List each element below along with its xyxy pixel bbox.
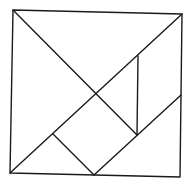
diagonal-bottom-left [10, 14, 182, 173]
vertical-divider [137, 56, 138, 135]
parallelogram-edge [53, 134, 94, 175]
tangram-diagram [0, 0, 189, 188]
